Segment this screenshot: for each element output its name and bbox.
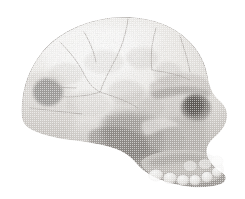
fossil-skull-figure — [0, 0, 245, 199]
tooth-pm1 — [189, 175, 201, 186]
tooth-posterior-a — [183, 161, 197, 172]
orbit-interior — [185, 97, 203, 115]
skull-illustration — [0, 0, 245, 199]
tooth-pm2 — [177, 175, 190, 186]
tooth-canine — [201, 171, 213, 182]
